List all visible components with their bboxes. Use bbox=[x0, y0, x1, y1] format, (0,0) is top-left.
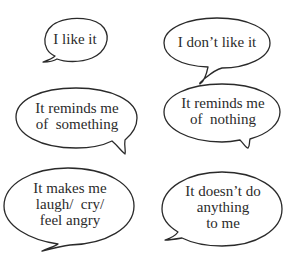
bubble-line: I don’t like it bbox=[178, 35, 256, 51]
bubble-line: It doesn’t do bbox=[185, 184, 261, 200]
speech-bubble-i-dont-like-it bbox=[164, 18, 270, 84]
bubble-text-i-dont-like-it: I don’t like it bbox=[178, 35, 256, 51]
bubble-line: of something bbox=[35, 117, 118, 133]
bubble-text-reminds-nothing: It reminds me of nothing bbox=[181, 96, 264, 128]
bubble-line: of nothing bbox=[181, 112, 264, 128]
bubble-line: It makes me bbox=[33, 181, 106, 197]
speech-bubbles-diagram: I like it I don’t like it It reminds me … bbox=[0, 0, 296, 253]
bubble-text-reminds-something: It reminds me of something bbox=[35, 101, 118, 133]
bubble-line: It reminds me bbox=[181, 96, 264, 112]
bubble-line: It reminds me bbox=[35, 101, 118, 117]
bubble-text-makes-me-feel: It makes me laugh/ cry/ feel angry bbox=[33, 181, 106, 228]
bubble-text-i-like-it: I like it bbox=[53, 32, 96, 48]
bubble-line: I like it bbox=[53, 32, 96, 48]
bubble-line: to me bbox=[185, 216, 261, 232]
bubble-line: feel angry bbox=[33, 213, 106, 229]
bubble-line: laugh/ cry/ bbox=[33, 197, 106, 213]
bubble-line: anything bbox=[185, 200, 261, 216]
bubble-text-doesnt-do-anything: It doesn’t do anything to me bbox=[185, 184, 261, 231]
